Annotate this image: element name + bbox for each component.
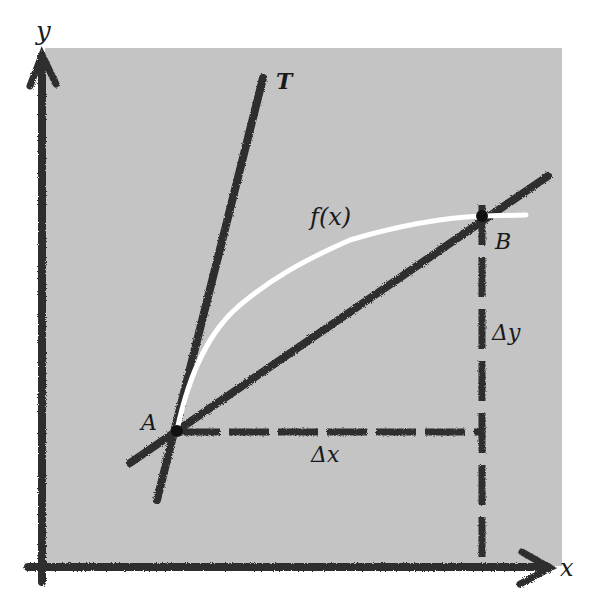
diagram-svg: [0, 0, 595, 613]
x-axis-label: x: [560, 556, 574, 580]
y-axis-label: y: [36, 18, 51, 44]
diagram-canvas: y x T f(x) A B Δx Δy: [0, 0, 595, 613]
point-b-label: B: [495, 231, 511, 253]
point-a-label: A: [141, 412, 157, 434]
tangent-label: T: [276, 70, 292, 92]
point-b-marker: [476, 210, 488, 222]
delta-x-label: Δx: [311, 444, 339, 466]
function-label: f(x): [310, 205, 351, 229]
delta-y-label: Δy: [492, 322, 520, 344]
point-a-marker: [171, 425, 183, 437]
